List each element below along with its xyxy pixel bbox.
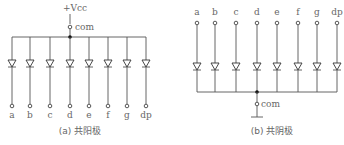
diode-icon — [232, 63, 240, 70]
segment-branch-a: a — [193, 7, 201, 92]
caption-a: (a) 共阳极 — [59, 125, 101, 136]
svg-text:e: e — [86, 110, 91, 120]
segment-branch-a: a — [8, 37, 16, 120]
com-terminal — [68, 25, 72, 29]
diode-icon — [253, 63, 261, 70]
seven-segment-led-diagrams: +Vcc com a b c — [0, 0, 344, 145]
svg-text:g: g — [314, 7, 320, 17]
common-anode-diagram: +Vcc com a b c — [8, 3, 152, 136]
segment-branch-b: b — [211, 7, 219, 92]
diode-icon — [294, 63, 302, 70]
diode-icon — [313, 63, 321, 70]
svg-text:b: b — [27, 110, 33, 120]
svg-text:e: e — [274, 7, 279, 17]
diode-icon — [85, 60, 93, 67]
segment-branch-g: g — [313, 7, 321, 92]
segment-branch-f: f — [104, 37, 112, 120]
segment-branch-f: f — [294, 7, 302, 92]
segment-branch-c: c — [232, 7, 240, 92]
common-cathode-diagram: a b c d e — [193, 7, 343, 136]
svg-text:f: f — [296, 7, 300, 17]
com-label: com — [261, 99, 280, 109]
vcc-label: +Vcc — [63, 3, 87, 13]
svg-text:d: d — [254, 7, 260, 17]
diode-icon — [104, 60, 112, 67]
svg-text:g: g — [124, 110, 130, 120]
caption-b: (b) 共阴极 — [251, 125, 294, 136]
svg-text:a: a — [9, 110, 15, 120]
com-label: com — [75, 22, 94, 32]
svg-text:dp: dp — [331, 7, 343, 17]
svg-text:b: b — [212, 7, 218, 17]
segment-branch-b: b — [26, 37, 34, 120]
com-terminal — [255, 102, 259, 106]
diode-icon — [142, 60, 150, 67]
svg-text:c: c — [233, 7, 238, 17]
diode-icon — [66, 60, 74, 67]
diode-icon — [333, 63, 341, 70]
segment-branch-dp: dp — [331, 7, 343, 92]
segment-branch-g: g — [123, 37, 131, 120]
diode-icon — [193, 63, 201, 70]
svg-text:dp: dp — [140, 110, 152, 120]
diode-icon — [46, 60, 54, 67]
svg-text:f: f — [106, 110, 110, 120]
segment-branch-e: e — [85, 37, 93, 120]
svg-text:d: d — [67, 110, 73, 120]
segment-branch-d: d — [66, 37, 74, 120]
segment-branch-c: c — [46, 37, 54, 120]
diode-icon — [123, 60, 131, 67]
segment-branch-d: d — [253, 7, 261, 92]
diode-icon — [26, 60, 34, 67]
svg-text:c: c — [47, 110, 52, 120]
diode-icon — [211, 63, 219, 70]
svg-text:a: a — [194, 7, 200, 17]
segment-branch-e: e — [273, 7, 281, 92]
segment-branch-dp: dp — [140, 37, 152, 120]
diode-icon — [8, 60, 16, 67]
diode-icon — [273, 63, 281, 70]
